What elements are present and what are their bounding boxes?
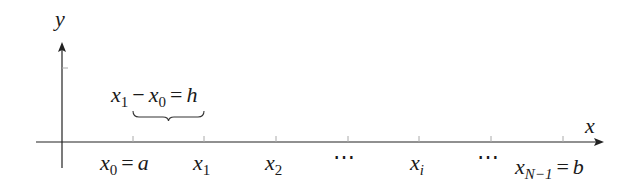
ellipsis-1: ⋯: [333, 146, 358, 168]
y-axis-label: y: [55, 8, 65, 30]
tick-label-x1: x1: [193, 152, 210, 178]
tick-label-xN-1: xN−1=b: [515, 156, 584, 182]
tick-label-x0: x0=a: [100, 152, 149, 178]
brace-icon: [133, 111, 204, 121]
tick-label-xi: xi: [410, 152, 424, 178]
x-axis-label: x: [585, 115, 595, 137]
tick-label-x2: x2: [265, 152, 282, 178]
ellipsis-2: ⋯: [477, 146, 502, 168]
step-size-equation: x1−x0=h: [111, 84, 197, 110]
